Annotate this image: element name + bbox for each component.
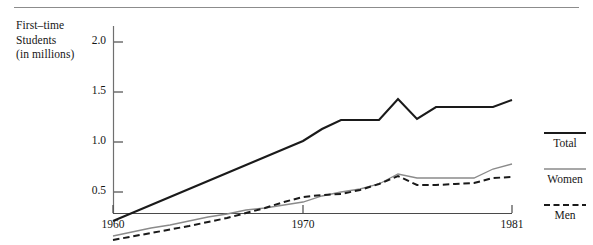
legend-label-women: Women <box>544 173 586 185</box>
y-axis-tick-label: 1.0 <box>70 134 106 146</box>
y-axis-ticks <box>114 42 123 192</box>
chart-axes <box>113 26 512 214</box>
x-axis-tick-label: 1970 <box>286 218 320 230</box>
y-axis-tick-label: 1.5 <box>70 84 106 96</box>
legend-label-total: Total <box>544 137 586 149</box>
legend-label-men: Men <box>544 209 586 221</box>
x-axis-tick-label: 1981 <box>495 218 529 230</box>
y-axis-tick-label: 0.5 <box>70 184 106 196</box>
series-line-total <box>113 99 512 221</box>
x-axis-tick-label: 1960 <box>96 218 130 230</box>
series-line-men <box>113 176 512 240</box>
chart-page: First–time Students (in millions) 0.51.0… <box>0 0 593 245</box>
x-axis-ticks <box>113 205 512 213</box>
y-axis-tick-label: 2.0 <box>70 34 106 46</box>
